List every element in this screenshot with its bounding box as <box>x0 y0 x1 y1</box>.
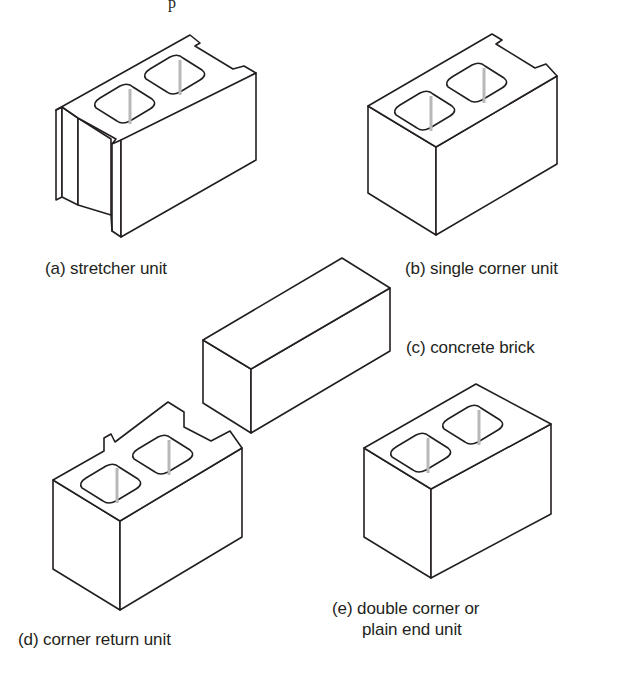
single-corner-unit-drawing <box>368 34 557 235</box>
label-concrete-brick: (c) concrete brick <box>406 337 535 358</box>
concrete-brick-drawing <box>203 258 390 433</box>
label-stretcher-unit: (a) stretcher unit <box>45 258 167 279</box>
corner-return-unit-drawing <box>53 402 242 610</box>
label-corner-return-unit: (d) corner return unit <box>18 629 171 650</box>
label-double-corner-line1: (e) double corner or <box>332 598 479 619</box>
double-corner-unit-drawing <box>364 384 551 578</box>
label-double-corner-line2: plain end unit <box>362 619 462 640</box>
label-single-corner-unit: (b) single corner unit <box>405 258 558 279</box>
stretcher-unit-drawing <box>56 35 256 237</box>
concrete-masonry-units-diagram <box>0 0 640 673</box>
